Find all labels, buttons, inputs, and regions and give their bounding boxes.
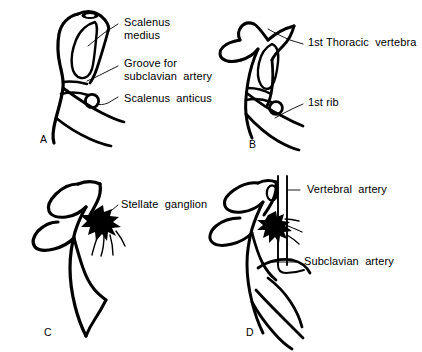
panel-b-artwork	[220, 23, 303, 150]
panel-c-artwork	[33, 182, 125, 336]
label-first-thoracic-vertebra: 1st Thoracic vertebra	[308, 36, 416, 49]
label-vertebral-artery: Vertebral artery	[307, 183, 387, 196]
panel-letter-b: B	[249, 138, 256, 150]
label-first-rib: 1st rib	[308, 96, 339, 109]
label-stellate-ganglion: Stellate ganglion	[121, 198, 207, 211]
panel-d-artwork	[210, 176, 310, 349]
label-groove-for-subclavian-artery: Groove for subclavian artery	[124, 57, 212, 82]
label-scalenus-medius: Scalenus medius	[124, 16, 170, 41]
panel-a-artwork	[53, 12, 124, 146]
figure-artwork	[0, 0, 422, 352]
anatomy-figure: Scalenus medius Groove for subclavian ar…	[0, 0, 422, 352]
panel-letter-c: C	[44, 326, 52, 338]
label-subclavian-artery: Subclavian artery	[304, 255, 394, 268]
panel-letter-d: D	[246, 326, 254, 338]
label-scalenus-anticus: Scalenus anticus	[124, 92, 212, 105]
panel-letter-a: A	[40, 133, 47, 145]
